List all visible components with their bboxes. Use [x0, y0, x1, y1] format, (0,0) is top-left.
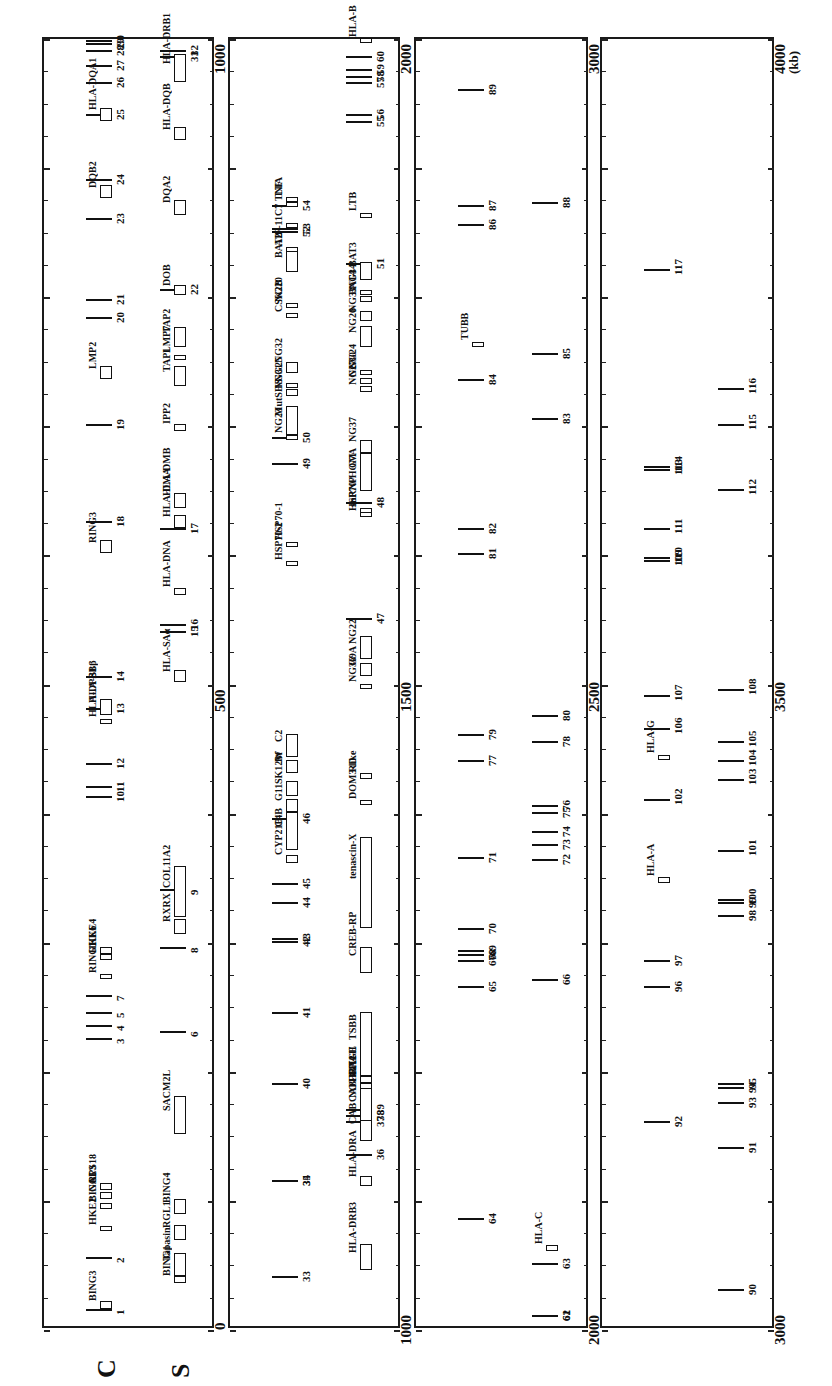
gene-box [100, 947, 112, 953]
scale-tick [416, 1072, 422, 1074]
gene-label: HLA-C [533, 1212, 544, 1244]
marker-line-76 [532, 805, 558, 807]
scale-tick [602, 233, 606, 234]
scale-tick [210, 265, 214, 266]
gene-box [360, 1076, 372, 1082]
scale-tick [396, 781, 400, 782]
scale-tick [208, 685, 214, 687]
scale-tick [770, 1007, 774, 1008]
marker-line-73 [532, 844, 558, 846]
scale-tick [602, 1169, 606, 1170]
gene-box [286, 251, 298, 272]
marker-line-68 [458, 954, 484, 956]
marker-number: 49 [300, 458, 312, 469]
scale-tick [230, 459, 234, 460]
scale-tick [602, 749, 606, 750]
scale-tick [602, 1040, 606, 1041]
gene-box [286, 781, 298, 796]
marker-number: 13 [114, 703, 126, 714]
marker-number: 92 [672, 1116, 684, 1127]
gene-box [360, 773, 372, 779]
marker-number: 2 [114, 1257, 126, 1263]
marker-number: 93 [746, 1097, 758, 1108]
marker-line-6 [160, 1031, 186, 1033]
marker-number: 87 [486, 200, 498, 211]
scale-tick [230, 717, 234, 718]
scale-tick [44, 620, 48, 621]
scale-tick [416, 297, 422, 299]
marker-number: 72 [560, 854, 572, 865]
marker-number: 65 [486, 981, 498, 992]
gene-box [286, 734, 298, 757]
scale-tick [602, 717, 606, 718]
marker-number: 8 [188, 948, 200, 954]
scale-tick [44, 1169, 48, 1170]
gene-box [100, 1183, 112, 1189]
marker-line-58 [346, 76, 372, 78]
marker-number: 12 [114, 758, 126, 769]
marker-line-99 [718, 902, 744, 904]
gene-label: BING4 [161, 1172, 172, 1203]
scale-tick [584, 781, 588, 782]
scale-tick [396, 652, 400, 653]
scale-tick [582, 555, 588, 557]
marker-number: 43 [300, 933, 312, 944]
marker-line-23 [86, 218, 112, 220]
scale-tick [394, 814, 400, 816]
marker-number: 103 [746, 769, 758, 786]
scale-tick [416, 459, 420, 460]
marker-number: 100 [746, 889, 758, 906]
scale-tick [584, 975, 588, 976]
scale-tick [230, 362, 234, 363]
gene-box [286, 202, 298, 207]
scale-tick [602, 1007, 606, 1008]
scale-tick [230, 943, 236, 945]
scale-tick [584, 910, 588, 911]
marker-number: 7 [114, 995, 126, 1001]
marker-number: 79 [486, 729, 498, 740]
scale-tick [396, 910, 400, 911]
scale-tick [230, 685, 236, 687]
scale-tick [770, 846, 774, 847]
marker-line-93 [718, 1102, 744, 1104]
scale-tick [770, 652, 774, 653]
marker-number: 101 [746, 840, 758, 857]
gene-label: NG34 [347, 264, 358, 289]
marker-line-69 [458, 950, 484, 952]
gene-label: G11 [273, 784, 284, 801]
marker-number: 59 [374, 64, 386, 75]
scale-tick [230, 1330, 236, 1332]
scale-tick [208, 555, 214, 557]
marker-number: 114 [672, 456, 684, 472]
scale-tick [584, 104, 588, 105]
scale-tick [416, 1265, 420, 1266]
marker-line-102 [644, 799, 670, 801]
scale-tick [44, 717, 48, 718]
marker-number: 107 [672, 685, 684, 702]
scale-tick [602, 362, 606, 363]
gene-label: snRNP [347, 477, 358, 507]
gene-label: HLA-G [645, 721, 656, 754]
scale-tick [416, 1040, 420, 1041]
gene-box [174, 515, 186, 528]
marker-line-116 [718, 388, 744, 390]
scale-tick [230, 491, 234, 492]
scale-tick [770, 265, 774, 266]
scale-tick [44, 200, 48, 201]
scale-tick [770, 523, 774, 524]
scale-tick [396, 1040, 400, 1041]
marker-line-63 [532, 1263, 558, 1265]
gene-box [100, 1192, 112, 1198]
scale-tick [230, 71, 234, 72]
scale-tick [396, 265, 400, 266]
scale-tick [230, 200, 234, 201]
scale-tick [416, 814, 422, 816]
scale-tick [770, 1040, 774, 1041]
scale-tick [230, 846, 234, 847]
marker-line-42 [272, 941, 298, 943]
gene-label: Bf [273, 752, 284, 762]
gene-box [286, 435, 298, 440]
scale-tick [584, 233, 588, 234]
gene-box [286, 303, 298, 308]
marker-line-110 [644, 557, 670, 559]
